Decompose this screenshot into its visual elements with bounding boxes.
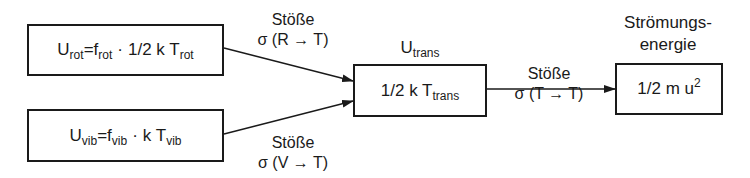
rotational-energy-box: Urot=frot·1/2 k Trot [27, 24, 224, 76]
vibrational-energy-formula: Uvib=fvib·k Tvib [70, 126, 182, 146]
collisions-label: Stöße [494, 64, 604, 84]
arrow-rot-to-trans [224, 48, 353, 81]
collisions-label: Stöße [238, 10, 348, 30]
translational-energy-title: Utrans [353, 38, 487, 58]
arrow-vib-to-trans [224, 101, 353, 134]
flow-energy-box: 1/2 m u2 [615, 63, 723, 115]
collisions-label: Stöße [238, 133, 348, 153]
cross-section-label: σ (V → T) [238, 153, 348, 173]
cross-section-label: σ (T → T) [494, 84, 604, 104]
edge-label-vib-to-trans: Stöße σ (V → T) [238, 133, 348, 173]
translational-energy-formula: 1/2 k Ttrans [381, 81, 459, 101]
translational-energy-box: 1/2 k Ttrans [353, 64, 487, 117]
vibrational-energy-box: Uvib=fvib·k Tvib [27, 109, 224, 162]
rotational-energy-formula: Urot=frot·1/2 k Trot [57, 40, 193, 60]
flow-energy-title: Strömungs- energie [608, 12, 728, 56]
edge-label-trans-to-flow: Stöße σ (T → T) [494, 64, 604, 104]
flow-energy-formula: 1/2 m u2 [637, 79, 700, 99]
edge-label-rot-to-trans: Stöße σ (R → T) [238, 10, 348, 50]
cross-section-label: σ (R → T) [238, 30, 348, 50]
